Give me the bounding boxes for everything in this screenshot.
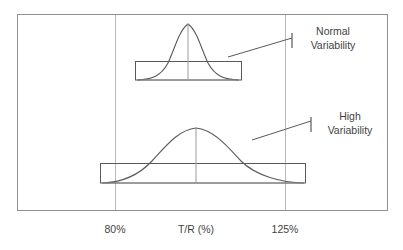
axis-label-center: T/R (%)	[178, 223, 214, 235]
variability-distribution-figure: Normal Variability High Variability 80% …	[0, 0, 403, 250]
high-variability-label-line2: Variability	[328, 124, 373, 136]
normal-variability-label-line1: Normal	[316, 25, 350, 37]
axis-label-lower-limit: 80%	[104, 223, 125, 235]
axis-label-upper-limit: 125%	[272, 223, 299, 235]
high-variability-label-line1: High	[339, 110, 361, 122]
axis-labels: 80% T/R (%) 125%	[104, 223, 298, 235]
normal-variability-label-line2: Variability	[311, 39, 356, 51]
